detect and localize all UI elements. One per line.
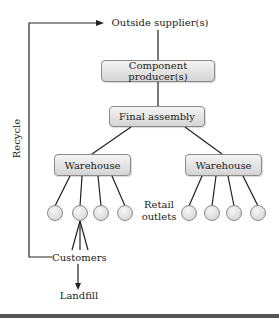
retail-outlet-circle	[93, 205, 109, 221]
retail-outlet-circle	[181, 205, 197, 221]
retail-outlet-circle	[250, 205, 266, 221]
outside-supplier-label: Outside supplier(s)	[110, 17, 210, 28]
arrow-to-landfill-icon	[75, 283, 81, 290]
customers-label: Customers	[52, 252, 104, 263]
landfill-label: Landfill	[56, 290, 102, 301]
arrow-to-supplier-icon	[96, 20, 104, 26]
retail-label-line2: outlets	[140, 211, 178, 222]
warehouse-left-box: Warehouse	[54, 154, 131, 176]
final-assembly-box: Final assembly	[109, 106, 205, 127]
bottom-border	[0, 314, 279, 318]
retail-outlet-circle	[47, 205, 63, 221]
retail-outlet-circle	[204, 205, 220, 221]
retail-outlet-circle	[72, 205, 88, 221]
warehouse-right-box: Warehouse	[185, 154, 262, 176]
supply-chain-diagram: Outside supplier(s) Component producer(s…	[0, 0, 279, 318]
recycle-line	[29, 23, 96, 257]
retail-outlet-circle	[117, 205, 133, 221]
retail-outlet-circle	[226, 205, 242, 221]
recycle-label: Recycle	[11, 119, 22, 159]
retail-label-line1: Retail	[140, 199, 178, 210]
component-producer-box: Component producer(s)	[101, 60, 215, 82]
